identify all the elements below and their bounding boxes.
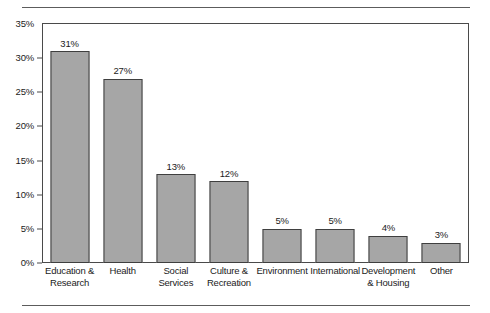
y-axis-tick-mark (37, 92, 42, 93)
bar[interactable] (369, 236, 408, 263)
top-divider-rule (22, 7, 470, 8)
bar-value-label: 27% (113, 66, 131, 76)
y-axis-tick-label: 25% (16, 88, 34, 98)
bar[interactable] (316, 229, 355, 263)
bar-value-label: 31% (60, 39, 78, 49)
y-axis-tick-mark (37, 263, 42, 264)
x-axis-category-label-line: & Housing (356, 277, 421, 289)
bar-value-label: 5% (275, 216, 288, 226)
bar-slot: 27% (96, 24, 149, 263)
bottom-divider-rule (22, 305, 470, 306)
y-axis-tick-label: 10% (16, 190, 34, 200)
y-axis-tick-mark (37, 58, 42, 59)
bar-slot: 13% (149, 24, 202, 263)
y-axis-tick-mark (37, 228, 42, 229)
x-axis-category-label-line: Recreation (196, 277, 261, 289)
x-axis-category-labels: Education &ResearchHealthSocialServicesC… (43, 265, 468, 305)
y-axis-tick-label: 30% (16, 53, 34, 63)
y-axis-tick-label: 20% (16, 122, 34, 132)
y-axis-tick-label: 35% (16, 19, 34, 29)
bar-slot: 4% (362, 24, 415, 263)
bar-slot: 31% (43, 24, 96, 263)
x-axis-category-label: Other (409, 265, 474, 277)
plot-area: 31%27%13%12%5%5%4%3% (43, 24, 468, 263)
bar[interactable] (103, 79, 142, 263)
bar[interactable] (209, 181, 248, 263)
bar-slot: 12% (202, 24, 255, 263)
bar-slot: 5% (309, 24, 362, 263)
chart-figure: 0%5%10%15%20%25%30%35% 31%27%13%12%5%5%4… (0, 0, 490, 313)
y-axis: 0%5%10%15%20%25%30%35% (0, 23, 42, 264)
y-axis-tick-label: 15% (16, 156, 34, 166)
bar[interactable] (422, 243, 461, 263)
bar-value-label: 5% (329, 216, 342, 226)
y-axis-tick-label: 0% (21, 258, 34, 268)
y-axis-tick-mark (37, 126, 42, 127)
bar-slot: 5% (256, 24, 309, 263)
y-axis-tick-label: 5% (21, 224, 34, 234)
bar[interactable] (156, 174, 195, 263)
bar[interactable] (50, 51, 89, 263)
bar-value-label: 12% (220, 169, 238, 179)
y-axis-tick-mark (37, 160, 42, 161)
bar-slot: 3% (415, 24, 468, 263)
x-axis-category-label-line: Research (37, 277, 102, 289)
bar-value-label: 13% (167, 162, 185, 172)
x-axis-category-label-line: Other (409, 265, 474, 277)
bar-value-label: 4% (382, 223, 395, 233)
bar-value-label: 3% (435, 230, 448, 240)
bar[interactable] (263, 229, 302, 263)
y-axis-tick-mark (37, 194, 42, 195)
